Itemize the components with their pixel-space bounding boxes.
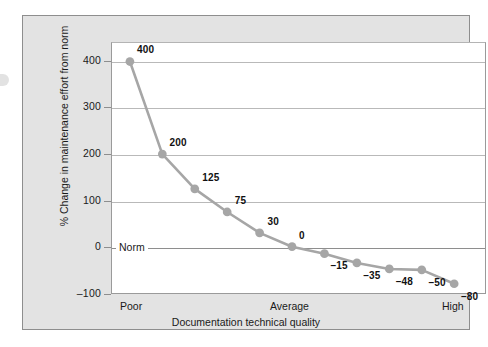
point-label-3: 75 (235, 195, 247, 206)
y-tick-label-200: 200 (83, 147, 101, 159)
y-tick-mark--100 (104, 294, 111, 295)
y-tick-label--100: –100 (77, 287, 101, 299)
point-label-0: 400 (137, 44, 154, 55)
data-point-3 (223, 208, 232, 217)
x-tick-label-2: High (442, 300, 464, 312)
y-tick-label-400: 400 (83, 54, 101, 66)
y-tick-mark-100 (104, 201, 111, 202)
data-point-10 (450, 279, 459, 288)
x-axis-title: Documentation technical quality (23, 316, 469, 328)
point-label-5: 0 (299, 230, 305, 241)
point-label-9: –50 (428, 277, 445, 288)
y-tick-mark-300 (104, 107, 111, 108)
plot-area: 40020012575300–15–35–48–50–80 Norm (111, 42, 486, 294)
data-point-6 (320, 249, 329, 258)
point-label-7: –35 (363, 270, 380, 281)
y-tick-label-100: 100 (83, 194, 101, 206)
figure-panel: % Change in maintenance effort from norm… (22, 15, 470, 330)
data-point-8 (385, 265, 394, 274)
series-line-chart (112, 43, 485, 293)
y-tick-mark-400 (104, 61, 111, 62)
data-point-4 (255, 228, 264, 237)
y-tick-mark-0 (104, 247, 111, 248)
point-label-1: 200 (170, 137, 187, 148)
y-tick-label-300: 300 (83, 100, 101, 112)
data-point-5 (288, 242, 297, 251)
point-label-8: –48 (396, 276, 413, 287)
point-label-4: 30 (267, 216, 279, 227)
x-tick-label-0: Poor (120, 300, 142, 312)
point-label-6: –15 (331, 260, 348, 271)
norm-baseline-label: Norm (116, 241, 148, 253)
series-markers (126, 57, 459, 288)
point-label-2: 125 (202, 172, 219, 183)
edge-artifact (0, 74, 9, 86)
data-point-1 (158, 150, 167, 159)
data-point-7 (353, 259, 362, 268)
data-point-0 (126, 57, 135, 66)
y-axis-title: % Change in maintenance effort from norm (58, 21, 70, 231)
data-point-2 (190, 184, 199, 193)
data-point-9 (417, 265, 426, 274)
x-tick-label-1: Average (270, 300, 309, 312)
y-tick-mark-200 (104, 154, 111, 155)
y-tick-label-0: 0 (95, 240, 101, 252)
